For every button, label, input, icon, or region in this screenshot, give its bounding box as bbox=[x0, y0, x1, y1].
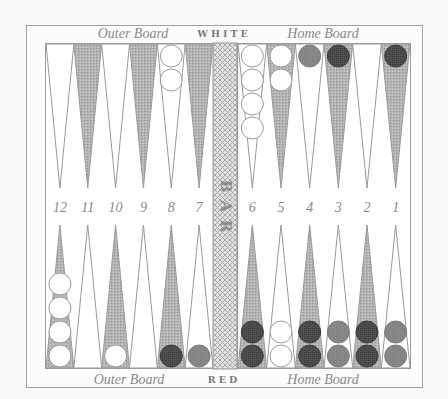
label-bottom-red: RED bbox=[208, 374, 240, 385]
checker-white[interactable] bbox=[241, 117, 263, 139]
checker-white[interactable] bbox=[49, 345, 71, 367]
bar-letter-a: A bbox=[217, 199, 235, 212]
checker-white[interactable] bbox=[270, 321, 292, 343]
point-number-10: 10 bbox=[109, 200, 123, 215]
bar-letter-b: B bbox=[217, 180, 235, 193]
checker-white[interactable] bbox=[270, 69, 292, 91]
point-number-4: 4 bbox=[306, 200, 313, 215]
checker-medium[interactable] bbox=[385, 345, 407, 367]
point-number-8: 8 bbox=[168, 200, 175, 215]
point-number-11: 11 bbox=[81, 200, 94, 215]
checker-white[interactable] bbox=[105, 345, 127, 367]
point-number-1: 1 bbox=[392, 200, 399, 215]
point-number-7: 7 bbox=[196, 200, 204, 215]
checker-medium[interactable] bbox=[327, 321, 349, 343]
label-top-home-board: Home Board bbox=[286, 26, 359, 41]
bar-letter-r: R bbox=[217, 220, 235, 233]
checker-medium[interactable] bbox=[188, 345, 210, 367]
checker-dark[interactable] bbox=[241, 345, 263, 367]
checker-medium[interactable] bbox=[385, 321, 407, 343]
point-number-6: 6 bbox=[249, 200, 256, 215]
checker-dark[interactable] bbox=[356, 345, 378, 367]
checker-dark[interactable] bbox=[299, 345, 321, 367]
point-number-2: 2 bbox=[364, 200, 371, 215]
checker-white[interactable] bbox=[49, 321, 71, 343]
checker-white[interactable] bbox=[270, 345, 292, 367]
checker-white[interactable] bbox=[270, 45, 292, 67]
checker-dark[interactable] bbox=[327, 45, 349, 67]
checker-dark[interactable] bbox=[356, 321, 378, 343]
label-bottom-outer-board: Outer Board bbox=[94, 372, 166, 387]
point-number-9: 9 bbox=[140, 200, 147, 215]
checker-white[interactable] bbox=[241, 45, 263, 67]
checker-dark[interactable] bbox=[241, 321, 263, 343]
checker-white[interactable] bbox=[160, 69, 182, 91]
label-bottom-home-board: Home Board bbox=[286, 372, 359, 387]
label-top-outer-board: Outer Board bbox=[98, 26, 170, 41]
label-top-white: WHITE bbox=[196, 28, 250, 39]
point-number-12: 12 bbox=[53, 200, 67, 215]
checker-medium[interactable] bbox=[299, 45, 321, 67]
checker-white[interactable] bbox=[49, 297, 71, 319]
checker-white[interactable] bbox=[49, 273, 71, 295]
checker-white[interactable] bbox=[241, 93, 263, 115]
left-board-area bbox=[46, 44, 214, 369]
backgammon-board: Outer Board WHITE Home Board Outer Board… bbox=[0, 0, 448, 399]
checker-medium[interactable] bbox=[327, 345, 349, 367]
point-number-5: 5 bbox=[278, 200, 285, 215]
point-number-3: 3 bbox=[334, 200, 342, 215]
checker-dark[interactable] bbox=[385, 45, 407, 67]
checker-white[interactable] bbox=[160, 45, 182, 67]
checker-dark[interactable] bbox=[160, 345, 182, 367]
checker-white[interactable] bbox=[241, 69, 263, 91]
right-board-area bbox=[238, 44, 411, 369]
checker-dark[interactable] bbox=[299, 321, 321, 343]
